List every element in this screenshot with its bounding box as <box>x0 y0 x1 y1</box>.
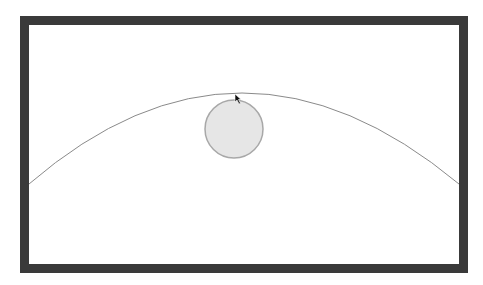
game-canvas[interactable] <box>0 0 483 285</box>
ball[interactable] <box>205 100 263 158</box>
